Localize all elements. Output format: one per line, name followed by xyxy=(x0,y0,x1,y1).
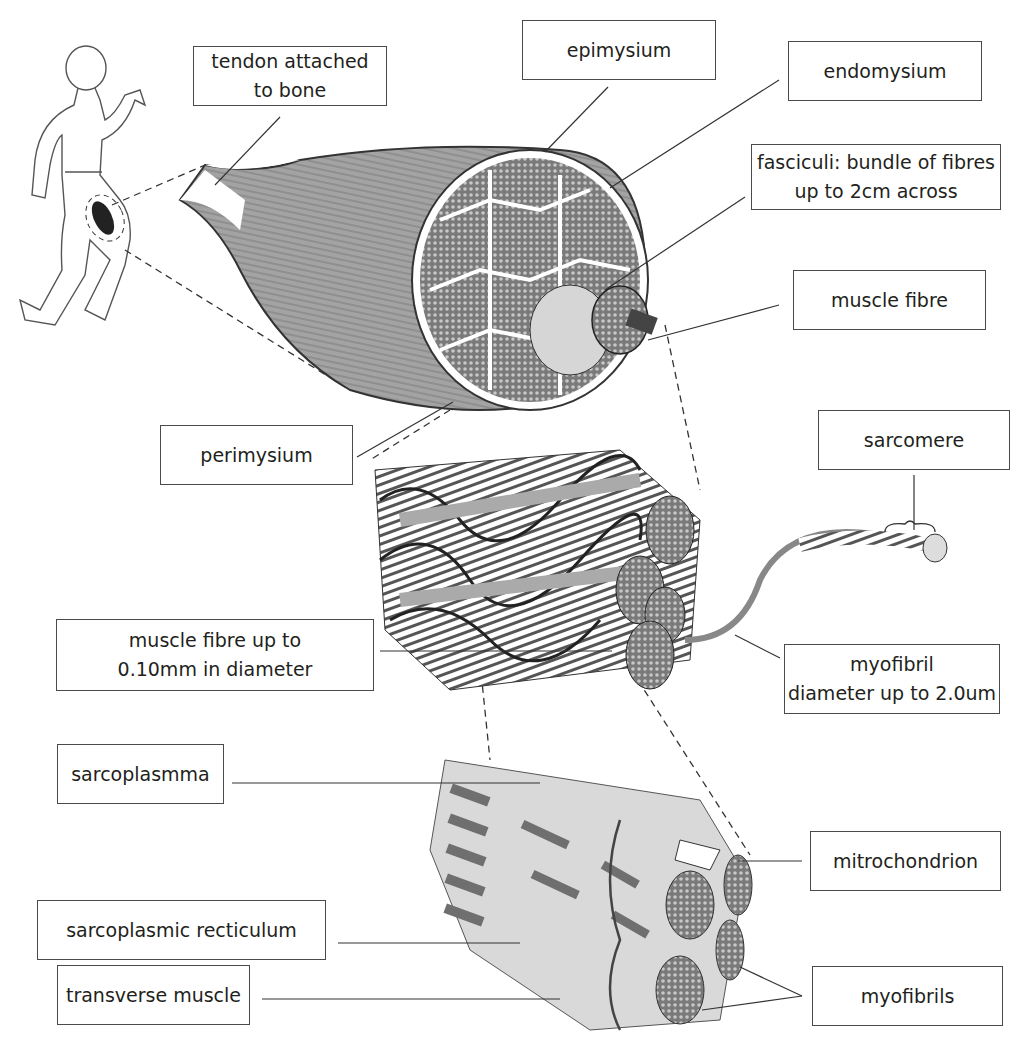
runner-figure xyxy=(20,46,145,325)
label-sarcoplasmic-recticulum: sarcoplasmic recticulum xyxy=(37,900,326,960)
label-myofibrils: myofibrils xyxy=(812,966,1003,1026)
label-tendon: tendon attached to bone xyxy=(193,46,387,106)
label-mitrochondrion: mitrochondrion xyxy=(810,831,1001,891)
fascicle-bundle xyxy=(375,450,700,690)
label-epimysium: epimysium xyxy=(522,20,716,80)
label-fasciculi: fasciculi: bundle of fibres up to 2cm ac… xyxy=(751,144,1001,210)
label-muscle-fibre-size: muscle fibre up to 0.10mm in diameter xyxy=(56,619,374,691)
label-muscle-fibre: muscle fibre xyxy=(793,270,986,330)
label-perimysium: perimysium xyxy=(160,425,353,485)
label-endomysium: endomysium xyxy=(788,41,982,101)
sarcomere-brace xyxy=(885,521,935,532)
label-sarcoplasmma: sarcoplasmma xyxy=(57,744,224,804)
label-sarcomere: sarcomere xyxy=(818,410,1010,470)
label-myofibril: myofibril diameter up to 2.0um xyxy=(784,644,1000,714)
muscle-fibre-detail xyxy=(430,760,752,1030)
label-transverse-muscle: transverse muscle xyxy=(57,965,250,1025)
